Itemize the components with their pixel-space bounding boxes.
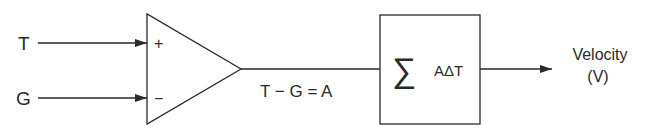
comparator-triangle: [147, 14, 241, 124]
input-label-g: G: [16, 88, 31, 109]
minus-sign: −: [154, 90, 163, 107]
output-label-line1: Velocity: [572, 46, 627, 63]
comparator-output-label: T − G = A: [260, 82, 333, 101]
sum-symbol: ∑: [392, 51, 416, 90]
input-label-t: T: [18, 33, 30, 54]
output-label-line2: (V): [587, 68, 608, 85]
integrator-expression: AΔT: [434, 62, 463, 79]
plus-sign: +: [154, 35, 163, 52]
block-diagram: T G + − T − G = A ∑ AΔT Velocity (V): [0, 0, 648, 131]
